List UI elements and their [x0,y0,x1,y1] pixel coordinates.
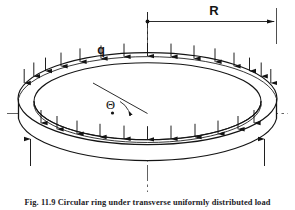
theta-label: Θ [106,98,115,112]
ring-body [18,53,277,161]
figure-caption: Fig. 11.9 Circular ring under transverse… [0,198,295,207]
radius-origin-dot [146,20,150,24]
radius-label: R [209,3,219,18]
load-label-group: q [97,43,105,57]
figure-container: R q Θ Fig. 11.9 Circular ring under tran… [0,0,295,210]
load-label: q [97,43,105,57]
circular-ring-diagram: R q Θ [0,0,295,210]
theta-vertex-dot [111,111,114,114]
radius-dimension-group: R [146,3,277,44]
